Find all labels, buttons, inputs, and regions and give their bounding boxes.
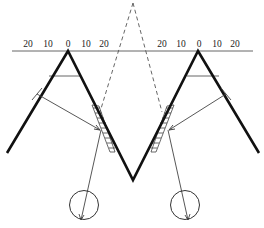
- right-scale-tick-3: 0: [197, 39, 202, 49]
- left-hatched-zone: [92, 105, 115, 152]
- right-reflected-ray: [168, 130, 190, 220]
- left-scale-tick-5: 20: [99, 39, 109, 49]
- right-incident-ray: [169, 88, 231, 130]
- left-reflected-ray: [79, 130, 101, 220]
- virtual-apex-lines: [100, 3, 162, 112]
- right-scale-tick-2: 10: [176, 39, 186, 49]
- surface-profile: [7, 51, 259, 180]
- optical-diagram: 20 10 0 10 20 20 10 0 10 20: [0, 0, 264, 228]
- right-scale-tick-1: 20: [157, 39, 167, 49]
- left-scale-tick-4: 10: [81, 39, 91, 49]
- left-scale-tick-1: 20: [23, 39, 33, 49]
- right-scale-tick-5: 20: [230, 39, 240, 49]
- right-scale: 20 10 0 10 20: [157, 39, 240, 49]
- right-scale-tick-4: 10: [212, 39, 222, 49]
- left-scale-tick-2: 10: [43, 39, 53, 49]
- left-scale: 20 10 0 10 20: [23, 39, 109, 49]
- left-scale-tick-3: 0: [66, 39, 71, 49]
